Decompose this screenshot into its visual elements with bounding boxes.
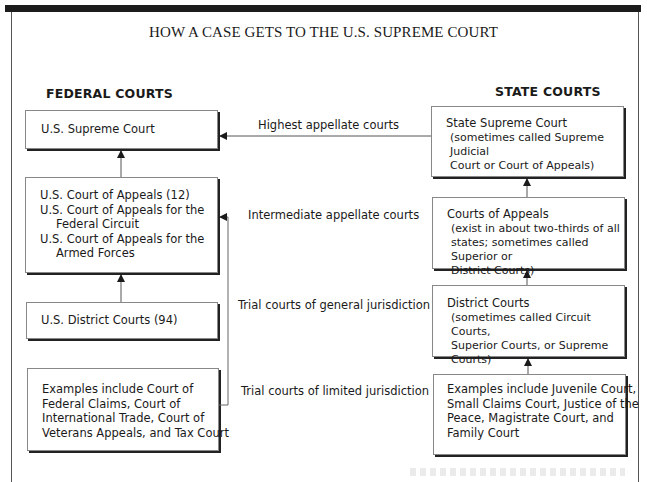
- bracket-limited-to-appeals: [219, 217, 228, 405]
- page-bleed-through: [410, 468, 625, 476]
- connector-arrows: [0, 0, 647, 482]
